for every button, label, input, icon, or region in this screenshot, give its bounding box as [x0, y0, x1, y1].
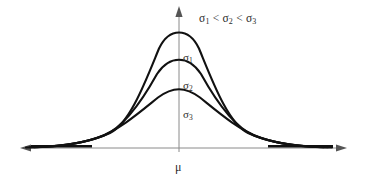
curve-label-sigma-3-subscript: 3	[189, 113, 193, 122]
legend-sigma-2: σ	[222, 12, 228, 24]
legend-operator-2: <	[233, 12, 246, 24]
legend-sigma-3-subscript: 3	[252, 17, 256, 26]
legend-operator-1: <	[210, 12, 223, 24]
horizontal-axis-right-arrowhead	[336, 144, 347, 151]
vertical-axis-arrowhead	[175, 6, 182, 17]
normal-distribution-figure: σ1 < σ2 < σ3 σ1 σ2 σ3 μ	[0, 0, 365, 186]
curve-label-sigma-1: σ1	[183, 52, 193, 63]
legend-sigma-1-subscript: 1	[205, 17, 209, 26]
legend-sigma-2-subscript: 2	[229, 17, 233, 26]
curve-label-sigma-2-subscript: 2	[189, 84, 193, 93]
figure-canvas	[0, 0, 365, 186]
sigma-ordering-legend: σ1 < σ2 < σ3	[199, 13, 257, 25]
curve-label-sigma-1-subscript: 1	[189, 56, 193, 65]
mean-axis-label: μ	[175, 161, 181, 173]
curve-label-sigma-3: σ3	[183, 109, 193, 120]
curve-label-sigma-2: σ2	[183, 80, 193, 91]
vertical-axis	[175, 6, 182, 152]
